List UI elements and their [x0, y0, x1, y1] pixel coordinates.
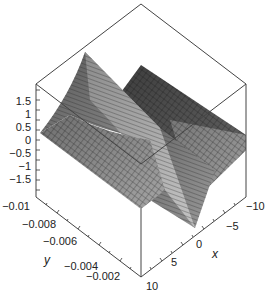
- x-axis: −10 −5 0 5 10 x: [146, 200, 265, 292]
- z-axis: 1.5 1 0.5 0 −0.5 −1 −1.5: [9, 90, 40, 190]
- z-tick-neg1: −1: [18, 160, 31, 172]
- y-axis: −0.01 −0.008 −0.006 −0.004 −0.002 y: [2, 200, 131, 282]
- y-tick-neg0.006: −0.006: [43, 235, 77, 247]
- y-tick-neg0.008: −0.008: [22, 218, 56, 230]
- x-axis-title: x: [211, 247, 219, 261]
- z-tick-0: 0: [25, 134, 31, 146]
- x-tick-5: 5: [171, 256, 177, 268]
- x-tick-neg10: −10: [246, 200, 265, 212]
- y-tick-neg0.002: −0.002: [86, 270, 120, 282]
- z-tick-1.5: 1.5: [16, 95, 31, 107]
- x-tick-neg5: −5: [226, 220, 239, 232]
- z-tick-neg1.5: −1.5: [9, 173, 31, 185]
- x-tick-10: 10: [146, 280, 158, 292]
- z-tick-0.5: 0.5: [16, 121, 31, 133]
- x-tick-0: 0: [196, 238, 202, 250]
- z-tick-1: 1: [25, 108, 31, 120]
- y-axis-title: y: [43, 253, 51, 267]
- y-tick-neg0.01: −0.01: [2, 200, 30, 212]
- surface-plot: 1.5 1 0.5 0 −0.5 −1 −1.5 −0.01 −0.008 −0…: [0, 0, 265, 293]
- z-tick-neg0.5: −0.5: [9, 147, 31, 159]
